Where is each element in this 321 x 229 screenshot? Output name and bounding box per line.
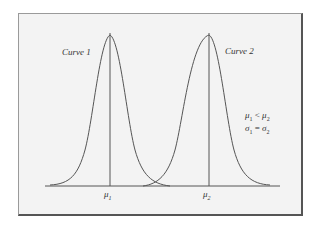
curve-2-label: Curve 2 [225, 46, 254, 56]
curve-1-label: Curve 1 [62, 47, 91, 57]
annotation-mean-relation: μ1 < μ2 [245, 110, 270, 122]
annotation-sigma-relation: σ1 = σ2 [245, 123, 269, 135]
mean-1-label: μ1 [104, 189, 112, 201]
normal-curves-plot [0, 0, 321, 229]
mean-2-label: μ2 [203, 189, 211, 201]
